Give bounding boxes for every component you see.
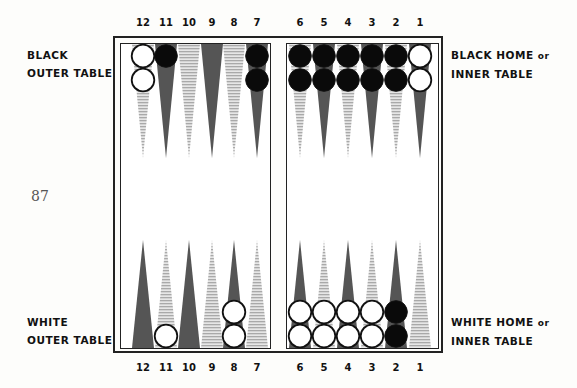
- white-checker: [223, 301, 246, 324]
- black-checker: [361, 69, 384, 92]
- white-checker: [289, 325, 312, 348]
- white-checker: [337, 325, 360, 348]
- black-checker: [289, 45, 312, 68]
- black-checker: [361, 45, 384, 68]
- black-checker: [313, 69, 336, 92]
- black-checker: [385, 325, 408, 348]
- white-checker: [132, 45, 155, 68]
- black-checker: [246, 69, 269, 92]
- point-triangle-bottom-9: [201, 240, 223, 348]
- black-checker: [289, 69, 312, 92]
- white-checker: [289, 301, 312, 324]
- white-checker: [132, 69, 155, 92]
- white-checker: [223, 325, 246, 348]
- backgammon-board: [0, 0, 577, 388]
- white-checker: [361, 325, 384, 348]
- point-triangle-top-9: [201, 44, 223, 158]
- black-checker: [385, 301, 408, 324]
- point-triangle-bottom-10: [178, 240, 200, 348]
- black-checker: [313, 45, 336, 68]
- white-checker: [337, 301, 360, 324]
- black-checker: [155, 45, 178, 68]
- point-triangle-bottom-1: [409, 240, 431, 348]
- point-triangle-bottom-12: [132, 240, 154, 348]
- point-triangle-top-10: [178, 44, 200, 158]
- black-checker: [385, 69, 408, 92]
- black-checker: [337, 45, 360, 68]
- black-checker: [246, 45, 269, 68]
- black-checker: [385, 45, 408, 68]
- point-triangle-top-8: [223, 44, 245, 158]
- white-checker: [409, 69, 432, 92]
- black-checker: [337, 69, 360, 92]
- white-checker: [313, 325, 336, 348]
- white-checker: [155, 325, 178, 348]
- white-checker: [313, 301, 336, 324]
- point-triangle-bottom-7: [246, 240, 268, 348]
- white-checker: [361, 301, 384, 324]
- white-checker: [409, 45, 432, 68]
